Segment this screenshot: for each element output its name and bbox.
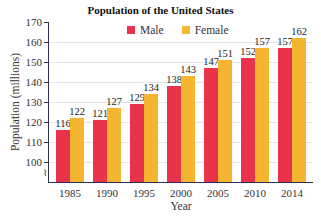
y-tick (44, 102, 48, 103)
bar-female-2010 (255, 48, 269, 182)
bar-female-2014 (292, 38, 306, 182)
legend-item-male: Male (127, 24, 164, 36)
bar-female-2005 (218, 60, 232, 182)
legend-item-female: Female (182, 24, 229, 36)
y-tick (44, 122, 48, 123)
y-tick-label: 140 (2, 77, 42, 88)
bar-female-1990 (107, 108, 121, 182)
y-axis (48, 22, 49, 182)
x-tick-label: 2000 (166, 187, 196, 199)
bar-male-2014 (278, 48, 292, 182)
bar-female-1985 (70, 118, 84, 182)
bar-male-2000 (167, 86, 181, 182)
bar-male-2010 (241, 58, 255, 182)
y-tick-label: 130 (2, 97, 42, 108)
y-tick (44, 22, 48, 23)
data-label: 162 (287, 27, 311, 37)
legend-label-male: Male (140, 24, 164, 36)
bar-male-1985 (56, 130, 70, 182)
y-tick-label: 110 (2, 137, 42, 148)
legend-swatch-male (127, 26, 135, 34)
x-tick-label: 2010 (240, 187, 270, 199)
y-tick-label: 100 (2, 157, 42, 168)
axis-break-icon: ⌇ (43, 168, 47, 178)
y-tick-label: 160 (2, 37, 42, 48)
x-tick-label: 2005 (203, 187, 233, 199)
y-tick-label: 170 (2, 17, 42, 28)
legend: Male Female (127, 24, 247, 36)
gridline (49, 62, 313, 63)
y-tick (44, 82, 48, 83)
x-tick-label: 1985 (55, 187, 85, 199)
legend-label-female: Female (195, 24, 229, 36)
bar-male-1995 (130, 104, 144, 182)
y-tick (44, 42, 48, 43)
data-label: 127 (102, 97, 126, 107)
y-tick-label: 150 (2, 57, 42, 68)
legend-swatch-female (182, 26, 190, 34)
data-label: 122 (65, 107, 89, 117)
x-tick-label: 1990 (92, 187, 122, 199)
y-axis-title: Population (millions) (9, 47, 21, 157)
data-label: 157 (250, 37, 274, 47)
x-axis (48, 182, 313, 183)
x-tick-label: 1995 (129, 187, 159, 199)
y-tick (44, 162, 48, 163)
data-label: 151 (213, 49, 237, 59)
data-label: 143 (176, 65, 200, 75)
x-axis-title: Year (0, 200, 321, 212)
data-label: 134 (139, 83, 163, 93)
y-tick (44, 62, 48, 63)
x-tick-label: 2014 (277, 187, 307, 199)
y-tick-label: 120 (2, 117, 42, 128)
bar-male-1990 (93, 120, 107, 182)
chart-title: Population of the United States (0, 4, 321, 16)
y-tick (44, 142, 48, 143)
bar-female-1995 (144, 94, 158, 182)
bar-male-2005 (204, 68, 218, 182)
bar-female-2000 (181, 76, 195, 182)
